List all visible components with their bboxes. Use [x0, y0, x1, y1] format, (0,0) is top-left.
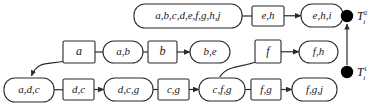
node-b[interactable]: b	[148, 41, 177, 63]
node-label: f,g,j	[306, 83, 323, 95]
node-label: d,c	[72, 83, 85, 95]
node-label: a,b,c,d,e,f,g,h,j	[155, 9, 220, 21]
node-f-g[interactable]: f,g	[251, 79, 281, 100]
node-label: e,h	[261, 9, 275, 21]
time-node-upper-dot[interactable]	[341, 10, 353, 22]
node-label: a,b	[116, 45, 130, 57]
time-node-lower-dot[interactable]	[341, 66, 353, 78]
time-axis-group: T2i T1i	[341, 9, 368, 82]
node-label: e,h,i	[313, 9, 332, 21]
node-layer: a,b,c,d,e,f,g,h,je,he,h,iaa,bbb,eff,ha,d…	[4, 4, 343, 102]
node-b-e[interactable]: b,e	[190, 41, 230, 63]
node-label: f,h	[313, 45, 325, 57]
node-label: c,f,g	[213, 83, 232, 95]
node-label: c,g	[167, 83, 181, 95]
node-c-f-g[interactable]: c,f,g	[199, 78, 245, 101]
node-d-c[interactable]: d,c	[63, 79, 94, 100]
node-c-g[interactable]: c,g	[158, 79, 189, 100]
node-f-g-j[interactable]: f,g,j	[292, 78, 337, 101]
graph-svg: a,b,c,d,e,f,g,h,je,he,h,iaa,bbb,eff,ha,d…	[0, 0, 379, 110]
node-f[interactable]: f	[255, 40, 281, 63]
diagram-canvas: a,b,c,d,e,f,g,h,je,he,h,iaa,bbb,eff,ha,d…	[0, 0, 379, 110]
time-node-upper-label: T2i	[357, 9, 368, 26]
node-a[interactable]: a	[63, 41, 95, 63]
node-d-c-g[interactable]: d,c,g	[104, 78, 153, 101]
node-e-h[interactable]: e,h	[252, 6, 284, 26]
node-a-b[interactable]: a,b	[103, 41, 143, 63]
time-node-lower-label: T1i	[357, 65, 368, 82]
node-label: b	[160, 44, 166, 58]
node-label: b,e	[203, 45, 216, 57]
node-a-d-c[interactable]: a,d,c	[4, 78, 54, 102]
edge-e_curve_1	[32, 61, 66, 76]
node-e-h-i[interactable]: e,h,i	[301, 4, 343, 27]
edge-e_curve_2	[220, 62, 256, 77]
node-label: a	[76, 44, 82, 58]
node-f-h[interactable]: f,h	[299, 41, 338, 63]
node-label: a,d,c	[18, 83, 40, 95]
node-label: d,c,g	[118, 83, 140, 95]
node-a-b-c-d-e-f-g-h-j[interactable]: a,b,c,d,e,f,g,h,j	[134, 4, 242, 28]
node-label: f,g	[260, 83, 272, 95]
